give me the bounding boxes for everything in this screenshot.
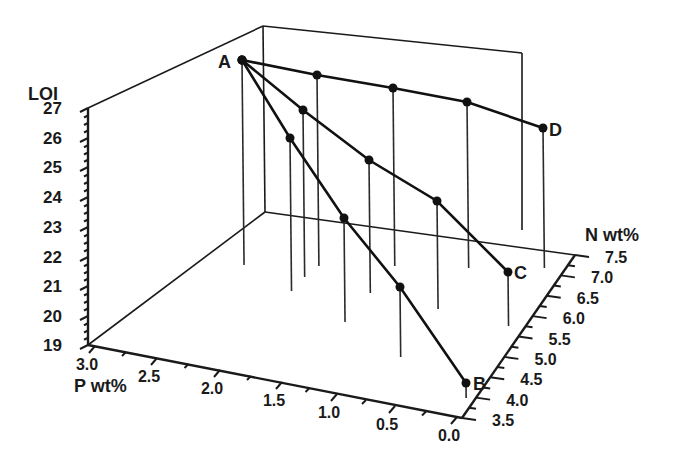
data-point — [396, 283, 405, 292]
drop-line — [508, 272, 509, 326]
n-major-tick — [533, 316, 547, 318]
axis-title: N wt% — [585, 225, 639, 245]
n-minor-tick — [497, 367, 504, 368]
back-vertical-edge — [263, 26, 265, 212]
p-tick-label: 2.0 — [201, 380, 223, 397]
loi-tick-label: 25 — [43, 158, 62, 177]
loi-tick-label: 23 — [43, 218, 62, 237]
loi-tick-label: 20 — [43, 307, 62, 326]
drop-line — [369, 160, 370, 293]
n-major-tick — [561, 275, 575, 277]
n-major-tick — [490, 377, 504, 379]
drop-line — [303, 110, 305, 277]
p-tick-label: 2.5 — [138, 368, 160, 385]
top-left-edge — [88, 26, 263, 108]
n-tick-label: 4.0 — [506, 392, 528, 409]
n-major-tick — [504, 357, 518, 359]
point-label-B: B — [473, 374, 486, 394]
point-label-C: C — [514, 263, 527, 283]
n-major-tick — [547, 296, 561, 298]
loi-tick-label: 22 — [43, 248, 62, 267]
3d-box-edges — [88, 26, 575, 345]
p-minor-tick — [362, 400, 366, 404]
top-back-edge — [263, 26, 522, 53]
p-minor-tick — [422, 412, 426, 416]
data-point — [340, 214, 349, 223]
n-tick-label: 4.5 — [520, 371, 542, 388]
p-major-tick — [451, 417, 457, 424]
p-major-tick — [89, 346, 95, 353]
axis-title: P wt% — [74, 376, 127, 396]
data-point — [433, 197, 442, 206]
floor-back-right-edge — [265, 212, 575, 255]
data-point — [365, 156, 374, 165]
p-tick-label: 0.5 — [376, 416, 398, 433]
loi-major-tick — [80, 345, 88, 349]
n-tick-label: 6.0 — [563, 310, 585, 327]
p-tick-label: 1.0 — [318, 404, 340, 421]
data-point — [313, 71, 322, 80]
loi-tick-label: 26 — [43, 129, 62, 148]
n-minor-tick — [540, 306, 547, 307]
n-major-tick — [476, 398, 490, 400]
data-point — [539, 124, 548, 133]
n-major-tick — [519, 337, 533, 339]
data-point — [504, 268, 513, 277]
drop-line — [317, 75, 319, 266]
p-tick-label: 0.0 — [438, 427, 460, 444]
drop-line — [344, 218, 345, 322]
3d-loi-chart: 2726252423222120193.02.52.01.51.00.50.03… — [0, 0, 675, 456]
loi-tick-label: 19 — [43, 336, 62, 355]
n-tick-label: 7.5 — [605, 249, 627, 266]
loi-tick-label: 24 — [43, 188, 62, 207]
point-label-D: D — [549, 120, 562, 140]
drop-line — [467, 102, 469, 268]
data-point — [389, 84, 398, 93]
n-tick-label: 6.5 — [577, 290, 599, 307]
n-major-tick — [575, 255, 589, 257]
drop-line — [400, 287, 401, 357]
n-major-tick — [462, 418, 476, 420]
n-minor-tick — [511, 347, 518, 348]
n-tick-label: 3.5 — [492, 412, 514, 429]
n-minor-tick — [469, 408, 476, 409]
axis-title: LOI — [28, 84, 58, 104]
point-label-A: A — [218, 52, 231, 72]
p-tick-label: 1.5 — [263, 392, 285, 409]
p-major-tick — [331, 394, 337, 401]
axes: 2726252423222120193.02.52.01.51.00.50.03… — [43, 99, 627, 444]
data-point — [238, 56, 247, 65]
chart-canvas: 2726252423222120193.02.52.01.51.00.50.03… — [0, 0, 675, 456]
n-tick-label: 7.0 — [591, 269, 613, 286]
data-point — [463, 98, 472, 107]
floor-back-left-edge — [88, 212, 265, 345]
data-point — [462, 379, 471, 388]
loi-tick-label: 21 — [43, 277, 62, 296]
p-major-tick — [389, 406, 395, 413]
drop-line — [290, 138, 292, 291]
drop-line — [437, 201, 438, 309]
n-minor-tick — [526, 326, 533, 327]
data-point — [299, 106, 308, 115]
drop-line — [242, 60, 244, 265]
series-line-A-B — [242, 60, 466, 383]
n-tick-label: 5.5 — [549, 331, 571, 348]
labels: ABCDLOIP wt%N wt% — [28, 52, 639, 396]
p-tick-label: 3.0 — [76, 356, 98, 373]
n-minor-tick — [554, 286, 561, 287]
drop-line — [393, 88, 395, 266]
n-tick-label: 5.0 — [534, 351, 556, 368]
data-point — [286, 134, 295, 143]
n-minor-tick — [568, 265, 575, 266]
drop-line — [543, 128, 544, 268]
